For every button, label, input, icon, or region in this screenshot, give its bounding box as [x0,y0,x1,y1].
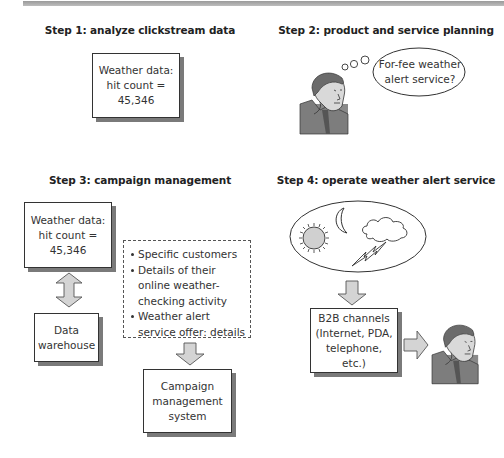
data-warehouse-box: Data warehouse [34,313,99,362]
campaign-details-list: Specific customers Details of their onli… [130,247,246,340]
sun-icon [299,223,329,253]
down-arrow-icon [175,342,205,366]
person-thinking-icon [300,70,352,134]
top-divider-bar [23,1,504,6]
detail-item: Details of their online weather-checking… [130,263,246,310]
campaign-details-box: Specific customers Details of their onli… [123,240,251,338]
step1-hitcount-box: Weather data: hit count = 45,346 [92,53,180,118]
step1-hitcount-text: Weather data: hit count = 45,346 [95,63,177,108]
right-arrow-icon [403,330,429,360]
person-customer-icon [432,321,482,385]
thought-text: For-fee weather alert service? [378,52,462,92]
step1-title: Step 1: analyze clickstream data [45,24,235,36]
down-arrow-icon [337,280,367,306]
detail-item: Weather alert service offer: details [130,309,246,340]
campaign-management-box: Campaign management system [143,369,232,433]
step2-title: Step 2: product and service planning [278,24,494,36]
step3-title: Step 3: campaign management [49,174,231,186]
step3-hitcount-box: Weather data: hit count = 45,346 [24,202,112,268]
step4-title: Step 4: operate weather alert service [277,174,496,186]
detail-item: Specific customers [130,247,246,263]
data-warehouse-text: Data warehouse [37,323,96,353]
b2b-channels-text: B2B channels (Internet, PDA, telephone, … [313,311,395,371]
campaign-management-text: Campaign management system [146,379,229,424]
double-arrow-icon [55,272,83,308]
weather-ellipse [289,200,427,273]
b2b-channels-box: B2B channels (Internet, PDA, telephone, … [310,308,398,373]
step3-hitcount-text: Weather data: hit count = 45,346 [27,213,109,258]
